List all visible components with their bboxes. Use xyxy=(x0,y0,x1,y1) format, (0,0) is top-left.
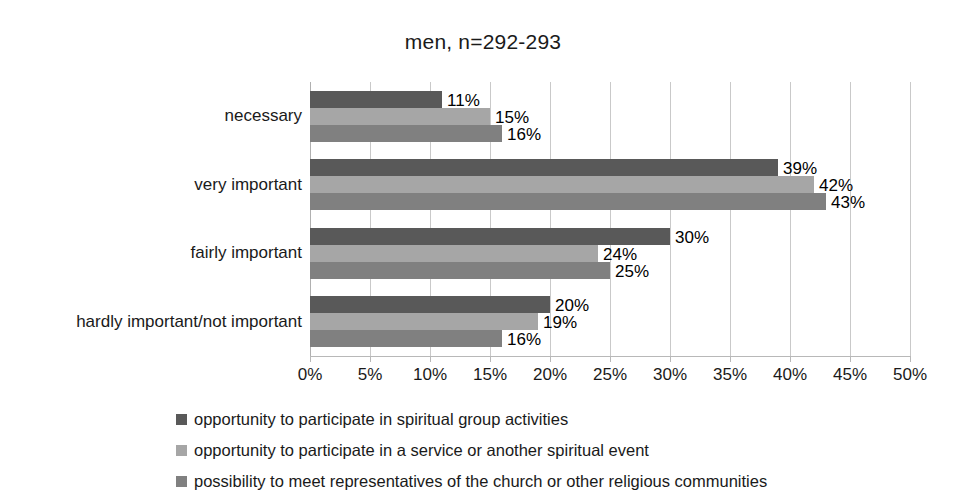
legend-swatch-icon xyxy=(176,414,187,425)
x-tick-mark xyxy=(430,357,431,362)
gridline-50pct xyxy=(910,82,911,356)
legend-label: opportunity to participate in a service … xyxy=(194,441,649,460)
x-tick-mark xyxy=(490,357,491,362)
legend-item[interactable]: opportunity to participate in a service … xyxy=(176,435,956,466)
bar xyxy=(310,159,778,176)
x-tick-label: 20% xyxy=(520,365,580,385)
x-tick-mark xyxy=(670,357,671,362)
bar-value-label: 20% xyxy=(555,297,589,314)
y-axis-category-label: very important xyxy=(10,175,302,195)
legend-label: possibility to meet representatives of t… xyxy=(194,472,767,491)
gridline-40pct xyxy=(790,82,791,356)
gridline-30pct xyxy=(670,82,671,356)
x-tick-mark xyxy=(310,357,311,362)
bar xyxy=(310,91,442,108)
y-axis-category-label: necessary xyxy=(10,106,302,126)
x-tick-label: 5% xyxy=(340,365,400,385)
x-tick-mark xyxy=(370,357,371,362)
bar-value-label: 15% xyxy=(495,109,529,126)
bar-value-label: 19% xyxy=(543,314,577,331)
x-tick-label: 15% xyxy=(460,365,520,385)
legend-item[interactable]: possibility to meet representatives of t… xyxy=(176,466,956,497)
bar-value-label: 24% xyxy=(603,246,637,263)
bar xyxy=(310,296,550,313)
bar-chart: men, n=292-293 0%5%10%15%20%25%30%35%40%… xyxy=(0,0,966,504)
bar xyxy=(310,108,490,125)
x-tick-mark xyxy=(550,357,551,362)
x-tick-mark xyxy=(610,357,611,362)
bar xyxy=(310,176,814,193)
x-tick-mark xyxy=(730,357,731,362)
bar xyxy=(310,262,610,279)
gridline-45pct xyxy=(850,82,851,356)
x-tick-label: 10% xyxy=(400,365,460,385)
x-tick-label: 50% xyxy=(880,365,940,385)
bar xyxy=(310,193,826,210)
bar xyxy=(310,228,670,245)
bar-value-label: 25% xyxy=(615,263,649,280)
bar xyxy=(310,313,538,330)
legend-swatch-icon xyxy=(176,476,187,487)
bar xyxy=(310,125,502,142)
x-tick-mark xyxy=(790,357,791,362)
legend-item[interactable]: opportunity to participate in spiritual … xyxy=(176,404,956,435)
bar-value-label: 11% xyxy=(447,92,480,109)
x-tick-label: 30% xyxy=(640,365,700,385)
bar-value-label: 39% xyxy=(783,160,817,177)
bar-value-label: 16% xyxy=(507,331,541,348)
legend-label: opportunity to participate in spiritual … xyxy=(194,410,568,429)
bar xyxy=(310,330,502,347)
legend-swatch-icon xyxy=(176,445,187,456)
x-tick-mark xyxy=(850,357,851,362)
x-tick-label: 25% xyxy=(580,365,640,385)
bar xyxy=(310,245,598,262)
chart-title: men, n=292-293 xyxy=(0,30,966,54)
gridline-35pct xyxy=(730,82,731,356)
x-tick-label: 45% xyxy=(820,365,880,385)
bar-value-label: 30% xyxy=(675,229,709,246)
bar-value-label: 42% xyxy=(819,177,853,194)
x-tick-label: 35% xyxy=(700,365,760,385)
x-tick-label: 40% xyxy=(760,365,820,385)
chart-legend: opportunity to participate in spiritual … xyxy=(176,404,956,497)
y-axis-category-label: hardly important/not important xyxy=(10,312,302,332)
bar-value-label: 43% xyxy=(831,194,865,211)
x-tick-label: 0% xyxy=(280,365,340,385)
bar-value-label: 16% xyxy=(507,126,541,143)
x-tick-mark xyxy=(910,357,911,362)
gridline-25pct xyxy=(610,82,611,356)
y-axis-category-label: fairly important xyxy=(10,243,302,263)
